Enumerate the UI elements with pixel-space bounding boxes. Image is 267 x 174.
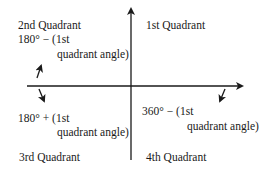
q2-name: 2nd Quadrant bbox=[18, 19, 81, 32]
q3-direction-arrow-icon bbox=[39, 89, 44, 101]
q2-direction-arrow-icon bbox=[37, 66, 41, 78]
q2-formula-line1: 180° − (1st bbox=[18, 33, 69, 46]
q2-formula-line2: quadrant angle) bbox=[57, 48, 129, 61]
q4-direction-arrow-icon bbox=[220, 89, 225, 101]
q4-formula-line1: 360° − (1st bbox=[142, 105, 193, 118]
q3-name: 3rd Quadrant bbox=[19, 151, 80, 164]
q4-formula-line2: quadrant angle) bbox=[187, 120, 259, 133]
q3-formula-line1: 180° + (1st bbox=[18, 112, 69, 125]
q1-name: 1st Quadrant bbox=[146, 19, 205, 32]
q3-formula-line2: quadrant angle) bbox=[57, 126, 129, 139]
q4-name: 4th Quadrant bbox=[146, 151, 206, 164]
